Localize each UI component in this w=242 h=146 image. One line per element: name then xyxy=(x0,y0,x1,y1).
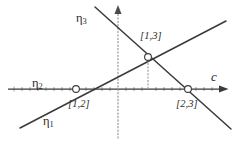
point-1-2-marker xyxy=(73,86,80,93)
diagram-canvas: η3 η2 η1 [1,3] [1,2] [2,3] c xyxy=(0,0,242,146)
vertical-axis-arrowhead xyxy=(115,5,122,14)
eta1-label-subscript: 1 xyxy=(50,119,54,129)
diagram-vector-layer xyxy=(0,0,242,146)
point-2-3-marker xyxy=(185,86,192,93)
eta3-label: η3 xyxy=(76,12,87,25)
point-1-3-label: [1,3] xyxy=(140,31,162,42)
c-axis-arrowhead xyxy=(219,85,229,92)
eta1-label: η1 xyxy=(43,115,54,128)
eta1-line xyxy=(20,21,226,128)
eta3-line xyxy=(95,7,231,129)
eta3-label-subscript: 3 xyxy=(83,16,87,26)
point-2-3-label: [2,3] xyxy=(176,99,198,110)
point-1-3-marker xyxy=(145,54,152,61)
point-1-2-label: [1,2] xyxy=(68,99,90,110)
c-axis-label: c xyxy=(211,70,217,83)
eta2-label-subscript: 2 xyxy=(39,81,43,91)
eta2-label: η2 xyxy=(32,77,43,90)
